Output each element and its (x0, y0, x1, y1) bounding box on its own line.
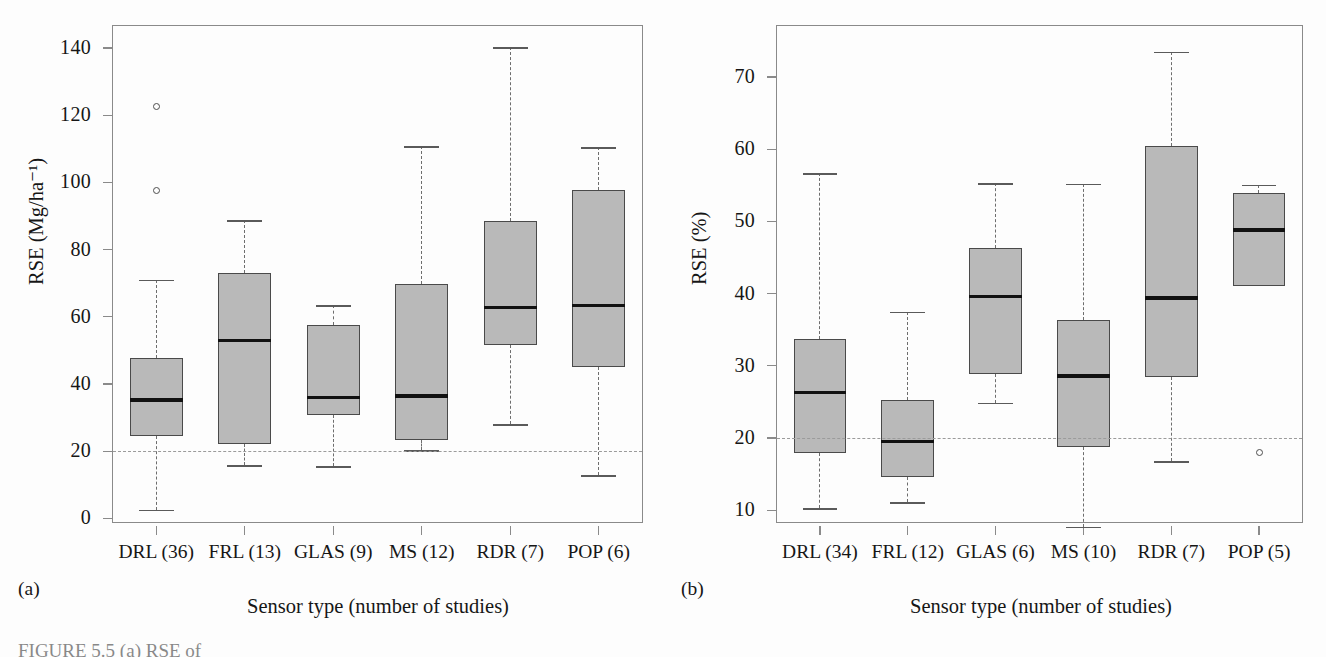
box (1057, 320, 1110, 447)
whisker-lower (421, 440, 422, 450)
whisker-cap-upper (404, 146, 439, 148)
whisker-cap-lower (890, 502, 925, 504)
x-tick-mark (421, 526, 422, 535)
y-tick-label: 140 (33, 37, 91, 57)
x-tick-label: MS (12) (378, 542, 467, 562)
median-line (969, 295, 1022, 298)
whisker-cap-lower (227, 465, 262, 467)
panel-a: 020406080100120140 DRL (36)FRL (13)GLAS … (0, 0, 663, 657)
median-line (1057, 374, 1110, 377)
x-tick-mark (156, 526, 157, 535)
whisker-cap-upper (1066, 184, 1101, 186)
whisker-cap-upper (316, 305, 351, 307)
box (218, 273, 271, 444)
x-tick-mark (1258, 526, 1259, 535)
x-tick-label: GLAS (6) (952, 542, 1040, 562)
y-tick-mark (103, 316, 112, 317)
y-tick-mark (767, 149, 776, 150)
x-tick-mark (598, 526, 599, 535)
whisker-lower (995, 374, 996, 402)
plot-frame-a (112, 25, 643, 523)
y-tick-mark (767, 365, 776, 366)
y-tick-label: 10 (709, 499, 755, 519)
whisker-cap-upper (1242, 185, 1277, 187)
x-tick-mark (333, 526, 334, 535)
y-tick-label: 60 (709, 138, 755, 158)
y-tick-mark (767, 510, 776, 511)
outlier-point (1256, 449, 1263, 456)
figure-caption: FIGURE 5.5 (a) RSE of (18, 640, 1308, 657)
whisker-lower (1171, 377, 1172, 461)
median-line (1233, 228, 1286, 231)
y-tick-label: 120 (33, 104, 91, 124)
y-tick-mark (767, 76, 776, 77)
reference-line (777, 438, 1302, 439)
x-tick-label: POP (5) (1215, 542, 1303, 562)
whisker-cap-upper (978, 183, 1013, 185)
median-line (307, 396, 360, 399)
x-tick-label: RDR (7) (1127, 542, 1215, 562)
whisker-lower (244, 444, 245, 466)
y-tick-label: 20 (33, 440, 91, 460)
whisker-cap-lower (581, 475, 616, 477)
y-tick-label: 40 (33, 373, 91, 393)
x-tick-label: RDR (7) (466, 542, 555, 562)
x-tick-label: FRL (13) (201, 542, 290, 562)
whisker-cap-upper (1154, 52, 1189, 54)
y-tick-mark (103, 115, 112, 116)
x-tick-label: MS (10) (1040, 542, 1128, 562)
y-tick-label: 50 (709, 210, 755, 230)
whisker-upper (598, 147, 599, 190)
outlier-point (153, 187, 160, 194)
y-tick-mark (103, 451, 112, 452)
y-tick-mark (767, 437, 776, 438)
panel-letter-b: (b) (681, 578, 704, 600)
y-tick-label: 30 (709, 355, 755, 375)
whisker-cap-lower (139, 510, 174, 512)
y-tick-label: 40 (709, 283, 755, 303)
y-tick-label: 0 (33, 507, 91, 527)
x-tick-mark (819, 526, 820, 535)
y-tick-mark (103, 182, 112, 183)
whisker-upper (510, 47, 511, 221)
y-tick-mark (103, 383, 112, 384)
whisker-cap-lower (1066, 527, 1101, 529)
whisker-upper (1083, 184, 1084, 320)
x-tick-label: DRL (34) (776, 542, 864, 562)
whisker-upper (244, 220, 245, 273)
x-tick-mark (1171, 526, 1172, 535)
x-tick-label: GLAS (9) (289, 542, 378, 562)
whisker-cap-upper (581, 147, 616, 149)
x-tick-label: DRL (36) (112, 542, 201, 562)
box (395, 284, 448, 440)
whisker-lower (598, 367, 599, 475)
whisker-cap-upper (139, 280, 174, 282)
x-tick-mark (907, 526, 908, 535)
panel-letter-a: (a) (18, 578, 40, 600)
median-line (794, 391, 847, 394)
box (969, 248, 1022, 374)
box (572, 190, 625, 367)
whisker-cap-lower (803, 508, 838, 510)
whisker-cap-upper (227, 220, 262, 222)
whisker-cap-lower (978, 403, 1013, 405)
y-tick-mark (103, 47, 112, 48)
y-tick-label: 70 (709, 66, 755, 86)
y-tick-label: 60 (33, 306, 91, 326)
whisker-upper (907, 312, 908, 400)
whisker-cap-lower (316, 466, 351, 468)
box (484, 221, 537, 345)
whisker-lower (819, 453, 820, 508)
median-line (218, 339, 271, 342)
median-line (395, 394, 448, 397)
whisker-cap-lower (1154, 461, 1189, 463)
whisker-upper (333, 305, 334, 324)
y-tick-mark (103, 518, 112, 519)
median-line (572, 304, 625, 307)
x-tick-mark (244, 526, 245, 535)
whisker-upper (995, 183, 996, 248)
y-tick-mark (103, 249, 112, 250)
median-line (881, 440, 934, 443)
whisker-cap-upper (493, 47, 528, 49)
whisker-lower (510, 345, 511, 424)
